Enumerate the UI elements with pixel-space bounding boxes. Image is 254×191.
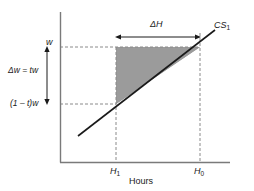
- budget-line-cs1: [78, 30, 215, 136]
- y-tick-label-wage-top: w: [46, 38, 53, 47]
- delta-w-label: Δw = tw: [8, 66, 38, 75]
- h0-subscript: 0: [201, 170, 205, 177]
- x-tick-label-hours-low: H1: [110, 167, 120, 176]
- delta-w-arrow: [44, 46, 49, 105]
- cs1-base: CS: [214, 20, 227, 30]
- delta-h-label: ΔH: [150, 20, 163, 29]
- h0-base: H: [194, 166, 201, 176]
- h1-base: H: [110, 166, 117, 176]
- cs1-subscript: 1: [227, 24, 231, 31]
- shaded-surplus-region-fill-under: [116, 47, 200, 104]
- figure-container: w Δw = tw (1 – t)w ΔH CS1 H1 H0 Hours: [0, 0, 254, 191]
- budget-line-label-cs1: CS1: [214, 21, 230, 30]
- y-tick-label-wage-net: (1 – t)w: [10, 99, 38, 108]
- h1-subscript: 1: [117, 170, 121, 177]
- x-axis-title: Hours: [129, 177, 153, 186]
- x-tick-label-hours-high: H0: [194, 167, 204, 176]
- delta-h-arrow: [115, 34, 201, 39]
